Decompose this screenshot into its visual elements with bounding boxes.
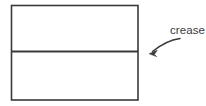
crease-label: crease bbox=[170, 24, 205, 36]
rectangle-outline bbox=[12, 6, 139, 101]
crease-pointer-arrow bbox=[153, 39, 181, 52]
crease-diagram: crease bbox=[0, 0, 206, 106]
diagram-canvas: crease bbox=[0, 0, 206, 106]
